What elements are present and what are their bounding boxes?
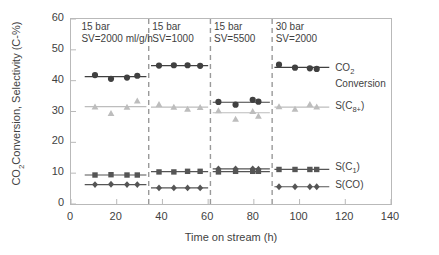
legend-text: S(CO) xyxy=(335,179,363,190)
data-point-triangle xyxy=(249,108,256,114)
data-point-triangle xyxy=(232,116,239,122)
x-axis-label: Time on stream (h) xyxy=(70,231,392,243)
data-point-diamond xyxy=(276,183,282,190)
y-axis-label-sub: 2 xyxy=(17,165,26,169)
data-point-square xyxy=(292,167,297,172)
y-tick-label: 60 xyxy=(30,11,64,23)
data-point-diamond xyxy=(92,181,98,188)
y-tick-label: 40 xyxy=(30,73,64,85)
data-point-square xyxy=(185,169,190,174)
data-point-square xyxy=(307,167,312,172)
data-point-circle xyxy=(215,99,221,105)
data-point-triangle xyxy=(184,106,191,112)
annotation-space-velocity: SV=1000 xyxy=(152,33,193,45)
data-point-square xyxy=(92,172,97,177)
data-point-triangle xyxy=(156,101,163,107)
segment-annotation: 15 barSV=2000 ml/g/h xyxy=(81,21,152,45)
data-point-circle xyxy=(232,102,238,108)
segment-annotation: 30 barSV=2000 xyxy=(276,21,317,45)
chart-figure: CO2Conversion, Selectivity (C-%) 0102030… xyxy=(0,0,439,255)
data-point-diamond xyxy=(185,185,191,192)
data-point-circle xyxy=(307,65,313,71)
annotation-pressure: 15 bar xyxy=(152,21,193,33)
x-tick-label: 80 xyxy=(233,210,273,222)
data-point-triangle xyxy=(292,106,299,112)
annotation-space-velocity: SV=2000 ml/g/h xyxy=(81,33,152,45)
legend-text: S(C xyxy=(335,100,352,111)
legend-entry-c8: S(C8+) xyxy=(335,100,364,116)
data-point-diamond xyxy=(124,181,130,188)
data-point-square xyxy=(276,167,281,172)
data-point-triangle xyxy=(215,107,222,113)
legend-subscript: 8+ xyxy=(352,105,361,114)
y-axis-label: CO2Conversion, Selectivity (C-%) xyxy=(10,0,25,214)
data-point-diamond xyxy=(197,185,203,192)
data-point-square xyxy=(135,172,140,177)
data-point-triangle xyxy=(108,110,115,116)
x-tick-label: 120 xyxy=(324,210,364,222)
legend-label-co2: CO2 xyxy=(335,62,386,78)
data-point-square xyxy=(108,172,113,177)
y-axis-label-text2: Conversion, Selectivity (C-%) xyxy=(10,22,22,165)
legend-entry-c1: S(C1) xyxy=(335,161,360,177)
y-tick-label: 50 xyxy=(30,42,64,54)
legend-text: S(C xyxy=(335,161,352,172)
legend-subscript: 2 xyxy=(350,67,354,76)
annotation-space-velocity: SV=5500 xyxy=(214,33,255,45)
data-point-circle xyxy=(292,65,298,71)
data-point-square xyxy=(156,169,161,174)
data-point-circle xyxy=(92,72,98,78)
data-point-circle xyxy=(134,73,140,79)
data-point-circle xyxy=(171,62,177,68)
y-axis-label-text1: CO xyxy=(10,169,22,186)
legend-entry-co: S(CO) xyxy=(335,179,363,191)
data-point-diamond xyxy=(307,183,313,190)
annotation-space-velocity: SV=2000 xyxy=(276,33,317,45)
data-point-square xyxy=(314,167,319,172)
data-point-circle xyxy=(184,62,190,68)
legend-text-end: ) xyxy=(357,161,360,172)
data-point-triangle xyxy=(276,103,283,109)
annotation-pressure: 30 bar xyxy=(276,21,317,33)
data-point-circle xyxy=(156,62,162,68)
data-point-triangle xyxy=(255,113,262,119)
x-tick-label: 100 xyxy=(279,210,319,222)
y-tick-label: 30 xyxy=(30,104,64,116)
data-point-circle xyxy=(108,76,114,82)
data-point-circle xyxy=(255,99,261,105)
annotation-pressure: 15 bar xyxy=(81,21,152,33)
x-tick-label: 0 xyxy=(50,210,90,222)
segment-annotation: 15 barSV=5500 xyxy=(214,21,255,45)
data-point-diamond xyxy=(314,183,320,190)
data-point-square xyxy=(171,169,176,174)
legend-label-conversion: Conversion xyxy=(335,78,386,90)
annotation-pressure: 15 bar xyxy=(214,21,255,33)
data-point-diamond xyxy=(108,181,114,188)
data-point-square xyxy=(124,172,129,177)
x-tick-label: 20 xyxy=(96,210,136,222)
data-point-triangle xyxy=(306,101,313,107)
data-point-circle xyxy=(276,62,282,68)
data-point-diamond xyxy=(134,181,140,188)
y-tick-label: 20 xyxy=(30,134,64,146)
x-tick-label: 60 xyxy=(187,210,227,222)
segment-annotation: 15 barSV=1000 xyxy=(152,21,193,45)
legend-text: CO xyxy=(335,62,350,73)
data-point-diamond xyxy=(156,185,162,192)
data-point-circle xyxy=(314,66,320,72)
y-tick-label: 10 xyxy=(30,165,64,177)
data-point-diamond xyxy=(171,185,177,192)
x-axis-ticks: 020406080100120140 xyxy=(0,210,439,228)
data-point-circle xyxy=(124,74,130,80)
x-tick-label: 140 xyxy=(370,210,410,222)
x-tick-label: 40 xyxy=(141,210,181,222)
data-point-triangle xyxy=(134,98,141,104)
legend-entry: CO2Conversion xyxy=(335,62,386,90)
y-tick-label: 0 xyxy=(30,196,64,208)
data-point-circle xyxy=(197,63,203,69)
data-point-circle xyxy=(250,97,256,103)
data-point-diamond xyxy=(292,183,298,190)
data-point-square xyxy=(197,169,202,174)
data-point-triangle xyxy=(313,103,320,109)
legend-text-end: ) xyxy=(361,100,364,111)
